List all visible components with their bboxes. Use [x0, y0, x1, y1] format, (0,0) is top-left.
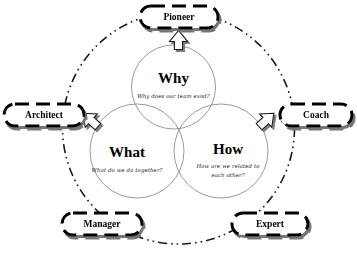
circle-how-title: How: [213, 141, 243, 157]
circle-how-question-line2: each other?: [211, 172, 244, 178]
arrow-to-coach: [253, 107, 280, 134]
circle-why-title: Why: [158, 70, 189, 86]
diagram-canvas: Why Why does our team exist? What What d…: [0, 0, 357, 257]
role-box-coach[interactable]: Coach: [280, 104, 352, 126]
role-box-manager[interactable]: Manager: [62, 213, 142, 235]
circle-what-question: What do we do together?: [91, 167, 162, 174]
role-box-expert[interactable]: Expert: [232, 213, 308, 235]
circle-how-question-line1: How are we related to: [195, 163, 260, 169]
role-label-coach: Coach: [303, 110, 330, 120]
circle-what-text-group: What What do we do together?: [91, 144, 162, 174]
circle-why-question: Why does our team exist?: [137, 93, 210, 100]
venn-diagram-root: Why Why does our team exist? What What d…: [0, 0, 357, 257]
role-label-manager: Manager: [84, 219, 122, 229]
circle-why-text-group: Why Why does our team exist?: [137, 70, 210, 100]
role-label-architect: Architect: [25, 110, 64, 120]
role-box-pioneer[interactable]: Pioneer: [140, 6, 218, 28]
role-box-architect[interactable]: Architect: [4, 104, 84, 126]
circle-what-title: What: [109, 144, 145, 160]
circle-why: [132, 45, 216, 129]
role-label-pioneer: Pioneer: [163, 12, 195, 22]
role-label-expert: Expert: [256, 219, 285, 229]
arrow-upright-glyph: [253, 107, 280, 134]
circle-how-text-group: How How are we related to each other?: [195, 141, 260, 178]
